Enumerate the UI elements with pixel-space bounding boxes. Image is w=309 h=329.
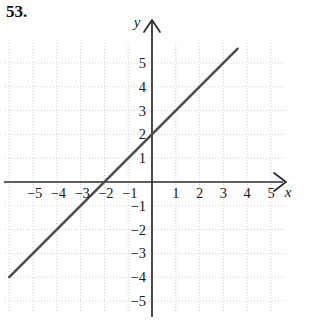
x-tick-label: 1 <box>172 185 179 201</box>
y-tick-label: 2 <box>139 126 146 142</box>
y-tick-label: 3 <box>139 103 146 119</box>
y-tick-label: −4 <box>131 269 147 285</box>
data-series-line <box>9 49 237 277</box>
line-y-equals-x-plus-2 <box>9 49 237 277</box>
coordinate-plane: −5−4−3−2−112345 54321−1−2−3−4−5 x y <box>0 0 309 329</box>
x-tick-label: 2 <box>196 185 203 201</box>
x-axis-label: x <box>284 184 292 200</box>
y-axis-label: y <box>132 14 141 30</box>
y-tick-label: −1 <box>131 198 146 214</box>
x-tick-label: 4 <box>244 185 252 201</box>
graph-figure: 53. −5−4−3−2−112345 54321−1−2−3−4−5 x <box>0 0 309 329</box>
y-tick-label: −3 <box>131 245 146 261</box>
y-tick-label: 5 <box>139 55 146 71</box>
x-axis-tick-labels: −5−4−3−2−112345 <box>27 185 275 201</box>
y-tick-label: −5 <box>131 293 146 309</box>
x-tick-label: −5 <box>27 185 42 201</box>
x-tick-label: −4 <box>51 185 67 201</box>
x-tick-label: 5 <box>267 185 274 201</box>
x-tick-label: −3 <box>74 185 89 201</box>
y-tick-label: 4 <box>139 79 147 95</box>
y-tick-label: 1 <box>139 150 146 166</box>
graph-svg: −5−4−3−2−112345 54321−1−2−3−4−5 x y <box>0 0 309 329</box>
x-tick-label: 3 <box>220 185 227 201</box>
y-tick-label: −2 <box>131 222 146 238</box>
x-tick-label: −2 <box>98 185 113 201</box>
